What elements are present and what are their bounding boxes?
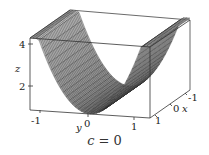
x-axis-label: x: [182, 103, 188, 114]
surface-mesh: [30, 10, 190, 114]
z-axis-ticks: [28, 44, 33, 86]
z-tick-4: 4: [19, 39, 25, 50]
z-axis-label: z: [14, 63, 21, 74]
z-tick-2: 2: [19, 81, 25, 92]
y-tick-1: 1: [131, 121, 137, 132]
y-axis-label: y: [75, 122, 82, 133]
caption-variable: c: [87, 133, 94, 148]
caption-value: 0: [114, 133, 122, 148]
plot-caption: c = 0: [0, 133, 209, 148]
x-tick-neg1: -1: [188, 92, 198, 103]
x-tick-0: 0: [173, 103, 179, 114]
x-tick-1: 1: [155, 115, 161, 126]
y-tick-neg1: -1: [31, 115, 41, 126]
y-tick-0: 0: [84, 118, 90, 129]
surface-plot: 4 2 z -1 0 1 y 1 0 -1 x: [0, 0, 209, 155]
